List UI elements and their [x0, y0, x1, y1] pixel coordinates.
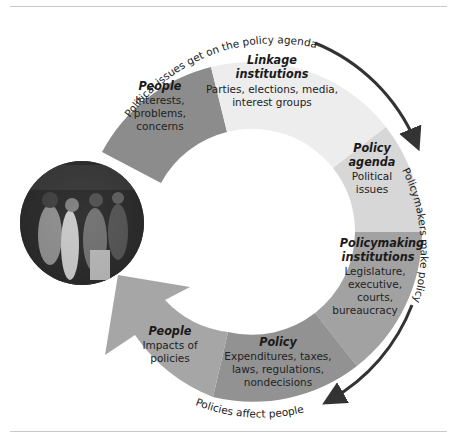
- policy-line: laws, regulations,: [232, 363, 324, 375]
- linkage-title: Linkage: [247, 52, 297, 67]
- policy-agenda-line: Political: [352, 170, 392, 182]
- policymaking-line: Legislature,: [344, 265, 405, 277]
- policy-agenda-line: issues: [356, 183, 388, 195]
- policy-line: nondecisions: [244, 376, 313, 388]
- crowd-photo: [20, 160, 150, 290]
- linkage-line: interest groups: [232, 96, 312, 108]
- policymaking-line: bureaucracy: [332, 304, 397, 316]
- policymaking-line: executive,: [348, 278, 402, 290]
- linkage-line: Parties, elections, media,: [206, 83, 338, 95]
- people-input-line: concerns: [136, 120, 183, 132]
- people-impacts-line: Impacts of: [142, 339, 198, 351]
- policymaking-line: courts,: [357, 291, 393, 303]
- policy-title: Policy: [259, 334, 297, 349]
- people-impacts-line: policies: [150, 352, 190, 364]
- people-impacts-title: People: [149, 323, 192, 338]
- text-people-input: People Interests, problems, concerns: [134, 78, 186, 132]
- policymaking-title: Policymaking: [340, 235, 424, 250]
- text-people-impacts: People Impacts of policies: [142, 323, 198, 364]
- policy-agenda-title: agenda: [349, 154, 396, 169]
- policymaking-title: institutions: [342, 249, 415, 264]
- policy-cycle-diagram: Political issues get on the policy agend…: [0, 0, 455, 438]
- people-input-title: People: [139, 78, 182, 93]
- linkage-title: institutions: [236, 66, 309, 81]
- people-input-line: Interests,: [135, 94, 184, 106]
- policy-line: Expenditures, taxes,: [224, 350, 331, 362]
- people-input-line: problems,: [134, 107, 186, 119]
- policy-agenda-title: Policy: [353, 140, 391, 155]
